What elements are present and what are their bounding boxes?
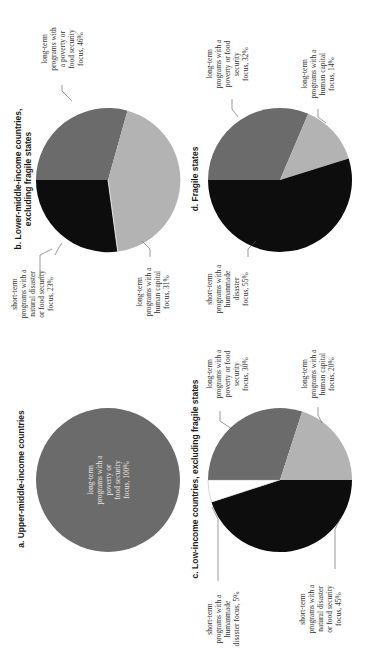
label-c-poverty: long-term programs with a poverty or foo… bbox=[205, 339, 250, 409]
label-b-natural-disaster: short-term programs with a natural disas… bbox=[10, 254, 55, 334]
label-a-poverty: long-term programs with a poverty or foo… bbox=[86, 435, 131, 525]
pie-chart-d bbox=[205, 105, 355, 255]
pie-chart-b bbox=[33, 105, 183, 255]
label-c-humanmade: short-term programs with a humanmade dis… bbox=[205, 579, 241, 659]
label-b-poverty: long-term programs with a poverty or foo… bbox=[40, 14, 85, 84]
panel-c-title: c. Low-income countries, excluding fragi… bbox=[190, 374, 200, 584]
label-c-natural-disaster: short-term programs with a natural disas… bbox=[298, 569, 343, 649]
label-c-human-capital: long-term programs with a human capital … bbox=[300, 339, 336, 409]
label-d-human-capital: long-term programs with a human capital … bbox=[300, 39, 336, 109]
slice-b-natural-disaster bbox=[36, 180, 118, 252]
label-d-poverty: long-term programs with a poverty or foo… bbox=[205, 29, 250, 99]
panel-a-title: a. Upper-middle-income countries bbox=[16, 389, 26, 569]
panel-d-title: d. Fragile states bbox=[190, 89, 200, 269]
figure-stage: a. Upper-middle-income countries long-te… bbox=[0, 0, 367, 669]
label-d-humanmade: short-term programs with a humanmade dis… bbox=[205, 254, 250, 324]
panel-b-title-line2: excluding fragile states bbox=[23, 89, 33, 269]
panel-b-title-line1: b. Lower-middle-income countries, bbox=[13, 89, 23, 269]
pie-chart-c bbox=[205, 405, 355, 555]
label-b-human-capital: long-term programs with a human capital … bbox=[135, 257, 171, 327]
